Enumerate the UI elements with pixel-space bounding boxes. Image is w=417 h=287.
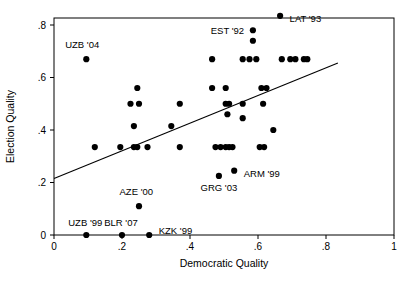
data-point [127,101,133,107]
data-point [260,101,266,107]
data-point [131,123,137,129]
point-annotation-label: ARM '99 [244,168,280,179]
data-point [226,101,232,107]
data-point [83,232,89,238]
data-point [261,144,267,150]
data-point [279,56,285,62]
data-point [177,101,183,107]
scatter-plot-figure: 0.2.4.6.81 0.2.4.6.8 UZB '04LAT '93EST '… [0,0,417,287]
data-point [240,115,246,121]
data-point [263,85,269,91]
data-point [92,144,98,150]
data-point [292,56,298,62]
data-point [119,232,125,238]
data-point [146,232,152,238]
data-point [83,56,89,62]
data-point [240,101,246,107]
x-tick-label: .8 [322,241,331,252]
data-point [277,13,283,19]
data-point [224,111,230,117]
data-point [246,56,252,62]
x-tick-label: .6 [254,241,263,252]
data-point [231,168,237,174]
data-point [270,127,276,133]
y-tick-label: .8 [38,20,47,31]
y-tick-label: .6 [38,72,47,83]
point-annotation-label: GRG '03 [201,182,238,193]
data-point [216,173,222,179]
data-point [240,56,246,62]
y-tick-label: 0 [40,230,46,241]
data-point [168,123,174,129]
data-point [223,85,229,91]
x-axis-title: Democratic Quality [180,257,269,269]
data-point [253,56,259,62]
y-axis-title: Election Quality [4,89,16,163]
y-tick-label: .4 [38,125,47,136]
point-annotation-label: KZK '99 [159,225,193,236]
point-annotation-label: LAT '93 [290,13,322,24]
point-annotation-label: AZE '00 [120,186,154,197]
x-tick-label: 1 [391,241,397,252]
plot-background [0,0,417,287]
data-point [177,144,183,150]
x-tick-label: .2 [118,241,127,252]
data-point [250,27,256,33]
data-point [209,85,215,91]
data-point [209,56,215,62]
point-annotation-label: UZB '04 [65,39,99,50]
data-point [117,144,123,150]
data-point [229,144,235,150]
data-point [134,144,140,150]
y-tick-label: .2 [38,177,47,188]
point-annotation-label: BLR '07 [104,217,138,228]
data-point [304,56,310,62]
x-tick-label: 0 [51,241,57,252]
point-annotation-label: EST '92 [211,25,244,36]
data-point [250,38,256,44]
data-point [136,203,142,209]
data-point [136,101,142,107]
plot-canvas: 0.2.4.6.81 0.2.4.6.8 UZB '04LAT '93EST '… [0,0,417,287]
x-tick-label: .4 [186,241,195,252]
point-annotation-label: UZB '99 [68,217,102,228]
data-point [134,85,140,91]
data-point [144,144,150,150]
